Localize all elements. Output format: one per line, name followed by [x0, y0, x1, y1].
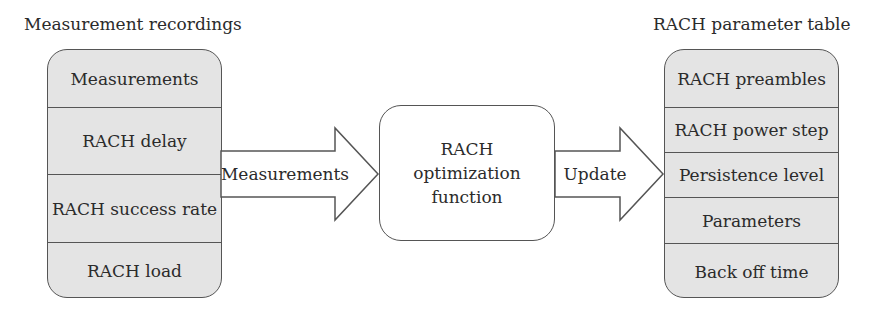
row-back-off-time: Back off time	[665, 243, 838, 298]
center-line-1: RACH	[441, 137, 494, 161]
rach-parameter-table: RACH preambles RACH power step Persisten…	[664, 49, 839, 298]
center-line-3: function	[431, 185, 502, 209]
row-persistence-level: Persistence level	[665, 152, 838, 197]
row-rach-power-step: RACH power step	[665, 107, 838, 152]
rach-optimization-function-box: RACH optimization function	[379, 105, 555, 241]
row-parameters: Parameters	[665, 197, 838, 243]
row-rach-preambles: RACH preambles	[665, 50, 838, 107]
rach-parameter-table-title: RACH parameter table	[653, 14, 851, 34]
measurements-arrow-label: Measurements	[221, 164, 349, 184]
update-arrow-label: Update	[563, 164, 626, 184]
center-line-2: optimization	[413, 161, 521, 185]
